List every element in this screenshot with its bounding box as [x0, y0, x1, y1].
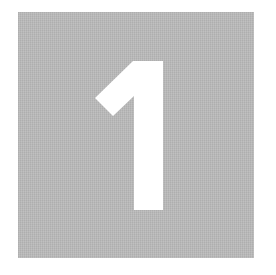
numeral-one-glyph	[0, 0, 276, 275]
numeral-one-shape	[95, 61, 163, 210]
